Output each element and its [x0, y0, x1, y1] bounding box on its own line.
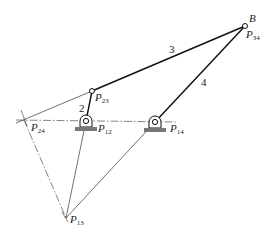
- line-through-p24: [21, 110, 27, 126]
- label-p23: P23: [94, 91, 109, 105]
- label-link-2: 2: [79, 102, 85, 114]
- link-4: [155, 26, 245, 122]
- link-3: [92, 26, 245, 91]
- joint-p23: [90, 89, 95, 94]
- centerline-p24-p13: [24, 120, 66, 218]
- mechanism-diagram: B P34 P23 P12 P14 P24 P13 3 4 2: [0, 0, 267, 236]
- label-link-4: 4: [201, 76, 207, 88]
- line-p12-p13: [66, 121, 86, 218]
- label-link-3: 3: [169, 43, 175, 55]
- label-p12: P12: [97, 122, 112, 136]
- label-b: B: [249, 12, 256, 24]
- label-p34: P34: [245, 28, 260, 42]
- ground-pivot-p12: [75, 115, 97, 131]
- ground-pivot-p14: [144, 116, 166, 132]
- label-p24: P24: [30, 121, 45, 135]
- line-p14-p13: [66, 122, 155, 218]
- label-p14: P14: [169, 122, 184, 136]
- label-p13: P13: [69, 213, 84, 227]
